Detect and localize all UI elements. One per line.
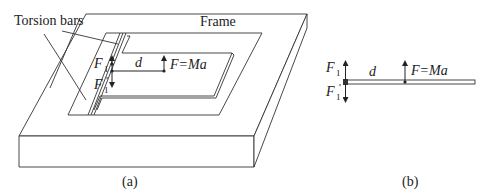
label-f1: F xyxy=(93,56,103,71)
label-force-eq: F=Ma xyxy=(169,57,207,72)
label-f1-prime-sub: 1 xyxy=(104,85,109,95)
label-b-f1-prime: F xyxy=(325,84,335,99)
label-f1-prime: F xyxy=(93,77,103,92)
label-b-f1-sub: 1 xyxy=(336,68,341,78)
label-d: d xyxy=(135,55,143,70)
frame-front-face xyxy=(19,136,254,167)
label-b-f1-prime-mark: ' xyxy=(339,81,341,93)
label-torsion-bars: Torsion bars xyxy=(14,13,83,28)
figure-b xyxy=(343,63,475,100)
label-b-f1-prime-sub: 1 xyxy=(336,92,341,102)
label-b-force-eq: F=Ma xyxy=(410,63,448,78)
caption-b: (b) xyxy=(402,174,419,190)
figure-a xyxy=(19,14,307,167)
label-frame: Frame xyxy=(200,14,236,29)
label-b-d: d xyxy=(369,64,377,79)
label-b-f1: F xyxy=(325,60,335,75)
torsion-accelerometer-diagram: Torsion bars Frame F 1 F 1 ' d F=Ma (a) … xyxy=(0,0,489,194)
beam-side-view xyxy=(345,80,475,84)
caption-a: (a) xyxy=(122,174,138,190)
label-f1-sub: 1 xyxy=(104,64,109,74)
label-f1-prime-mark: ' xyxy=(106,74,108,86)
